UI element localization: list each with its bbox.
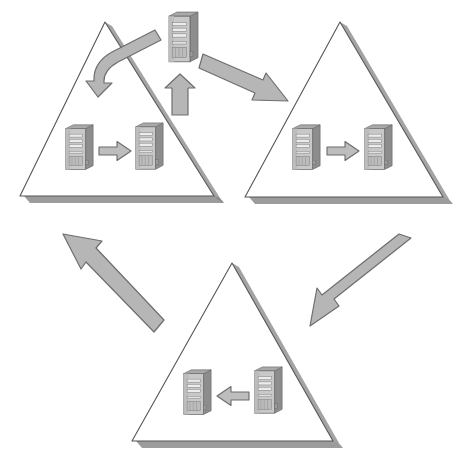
triangle-shadow <box>24 196 224 203</box>
server-tower-icon[interactable] <box>365 125 392 170</box>
central-hub-server-icon[interactable] <box>169 12 198 62</box>
arrow-top-right-to-bottom <box>310 234 411 326</box>
site-bottom-group[interactable] <box>132 263 343 448</box>
arrow-bottom-to-top-left <box>63 234 164 332</box>
site-top-right-group[interactable] <box>245 22 453 204</box>
triangle-shadow <box>136 441 343 448</box>
server-tower-icon[interactable] <box>293 125 320 170</box>
server-tower-icon[interactable] <box>136 123 163 169</box>
server-tower-icon[interactable] <box>255 367 282 413</box>
site-bottom-triangle[interactable] <box>132 263 333 441</box>
server-tower-icon[interactable] <box>66 125 93 170</box>
triangle-shadow <box>249 197 453 204</box>
cycle-diagram <box>0 0 465 466</box>
arrow-top-left-to-hub <box>165 74 195 115</box>
site-top-right-triangle[interactable] <box>245 22 443 197</box>
arrow-hub-to-top-right <box>199 54 288 101</box>
diagram-canvas: Three-site server replication cycle <box>0 0 465 466</box>
server-tower-icon[interactable] <box>184 370 211 415</box>
